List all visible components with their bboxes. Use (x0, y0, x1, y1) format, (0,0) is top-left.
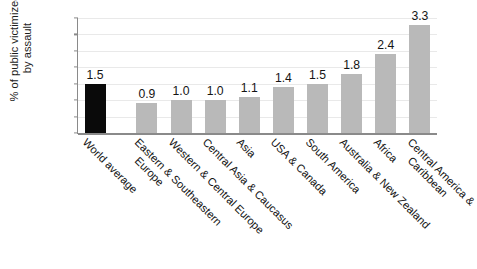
bar-9[interactable]: 3.3 (409, 18, 430, 133)
bar-value-label: 1.4 (275, 71, 292, 85)
bar-rect (239, 97, 260, 133)
x-axis-tick-labels: World averageEastern & SoutheasternEurop… (78, 136, 437, 266)
bar-1[interactable]: 0.9 (136, 18, 157, 133)
bar-rect (171, 100, 192, 133)
x-tick-label-line: Europe (123, 145, 215, 237)
bar-value-label: 0.9 (138, 87, 155, 101)
bar-value-label: 1.5 (309, 68, 326, 82)
bar-0[interactable]: 1.5 (85, 18, 106, 133)
x-tick-label-8: Africa (371, 136, 400, 165)
bar-6[interactable]: 1.5 (307, 18, 328, 133)
bar-3[interactable]: 1.0 (205, 18, 226, 133)
y-axis-line (77, 18, 78, 134)
x-axis-line (78, 133, 437, 135)
bar-5[interactable]: 1.4 (273, 18, 294, 133)
y-axis-title: % of public victimized by assault (1, 0, 41, 115)
bar-rect (307, 84, 328, 133)
bar-4[interactable]: 1.1 (239, 18, 260, 133)
bar-rect (85, 84, 106, 133)
x-tick-label-line: Asia (234, 136, 258, 160)
bar-value-label: 3.3 (411, 9, 428, 23)
bar-value-label: 1.0 (173, 84, 190, 98)
x-tick-label-4: Asia (234, 136, 258, 160)
bar-rect (136, 103, 157, 133)
bar-value-label: 1.1 (241, 81, 258, 95)
bar-rect (409, 25, 430, 133)
bar-8[interactable]: 2.4 (375, 18, 396, 133)
bar-rect (273, 87, 294, 133)
bar-2[interactable]: 1.0 (171, 18, 192, 133)
bar-rect (375, 54, 396, 133)
bar-value-label: 1.5 (87, 68, 104, 82)
y-axis-title-line-1: % of public victimized (8, 0, 22, 101)
bar-value-label: 1.8 (343, 58, 360, 72)
x-tick-label-line: Africa (371, 136, 400, 165)
plot-area: 1.50.91.01.01.11.41.51.82.43.3 (78, 18, 437, 133)
bar-value-label: 2.4 (377, 38, 394, 52)
bar-value-label: 1.0 (207, 84, 224, 98)
bar-7[interactable]: 1.8 (341, 18, 362, 133)
bar-rect (205, 100, 226, 133)
y-axis-title-line-2: by assault (21, 23, 35, 73)
bar-rect (341, 74, 362, 133)
